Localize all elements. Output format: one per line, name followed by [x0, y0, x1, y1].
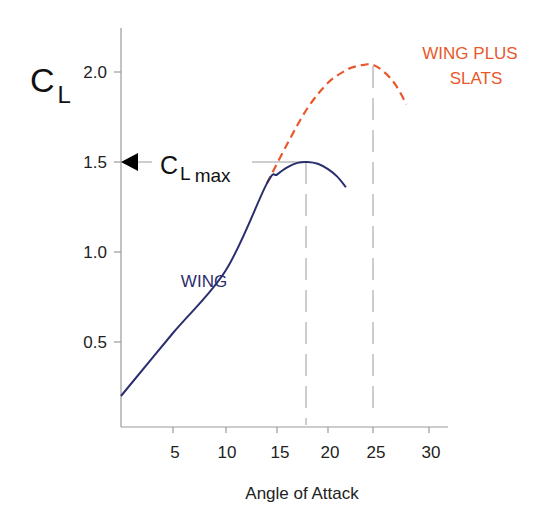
x-tick-label: 10 — [218, 443, 237, 462]
y-tick-label: 1.5 — [83, 153, 107, 172]
y-ticks — [114, 72, 121, 342]
x-axis-title: Angle of Attack — [245, 484, 359, 503]
slats-label-line2: SLATS — [450, 69, 503, 88]
y-axis-title: CL — [30, 61, 71, 108]
x-tick-label: 30 — [422, 443, 441, 462]
wing-curve — [121, 162, 346, 396]
y-tick-label: 2.0 — [83, 63, 107, 82]
x-tick-label: 20 — [321, 443, 340, 462]
lift-coefficient-chart: 2.0 1.5 1.0 0.5 5 10 15 20 25 30 Angle o… — [0, 0, 535, 531]
y-tick-label: 0.5 — [83, 333, 107, 352]
x-tick-label: 25 — [367, 443, 386, 462]
wing-label: WING — [181, 272, 227, 291]
x-tick-label: 15 — [271, 443, 290, 462]
x-ticks — [173, 427, 429, 433]
wing-plus-slats-curve — [267, 64, 407, 183]
slats-label-line1: WING PLUS — [422, 44, 517, 63]
x-tick-label: 5 — [170, 443, 179, 462]
y-tick-label: 1.0 — [83, 243, 107, 262]
clmax-label: CLmax — [160, 151, 231, 186]
clmax-arrow-icon — [121, 153, 138, 171]
